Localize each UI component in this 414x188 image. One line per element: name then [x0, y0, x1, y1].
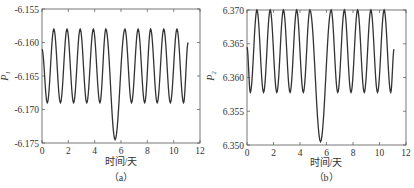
x-tick-label: 2 [66, 146, 71, 156]
y-tick-label: -6.170 [14, 105, 39, 115]
y-tick-label: 6.350 [223, 141, 245, 151]
caption-a: （a） [109, 172, 133, 183]
y-tick-label: 6.370 [223, 6, 245, 16]
y-tick-label: 6.360 [223, 73, 245, 83]
x-tick-label: 8 [145, 146, 150, 156]
x-axis-title-a: 时间/天 [105, 155, 138, 167]
y-tick-label: 6.365 [223, 39, 245, 49]
y-tick-label: 6.355 [223, 107, 245, 117]
x-tick-label: 0 [40, 146, 45, 156]
x-tick-label: 6 [119, 146, 124, 156]
x-tick-label: 4 [298, 148, 303, 158]
x-tick-label: 4 [92, 146, 97, 156]
x-tick-label: 0 [245, 148, 250, 158]
x-tick-label: 8 [351, 148, 356, 158]
x-axis-title-b: 时间/天 [310, 156, 343, 168]
x-tick-label: 12 [401, 148, 411, 158]
y-tick-label: -6.165 [14, 72, 39, 82]
x-tick-label: 12 [195, 146, 205, 156]
series-line-p2 [247, 10, 394, 142]
y-tick-label: -6.160 [14, 38, 39, 48]
y-tick-label: -6.155 [14, 5, 39, 15]
chart-panel-a: -6.155-6.160-6.165-6.170-6.175 024681012… [0, 5, 205, 184]
y-tick-label: -6.175 [14, 139, 39, 149]
x-tick-label: 2 [271, 148, 276, 158]
chart-panel-b: 6.3706.3656.3606.3556.350 024681012 时间/天… [205, 6, 411, 184]
figure: -6.155-6.160-6.165-6.170-6.175 024681012… [0, 0, 414, 188]
x-axis-a: 024681012 [40, 9, 205, 156]
y-axis-title-b: P₂ [205, 71, 216, 82]
y-axis-b: 6.3706.3656.3606.3556.350 [223, 6, 406, 151]
series-line-p1 [42, 29, 188, 140]
caption-b: （b） [314, 172, 339, 183]
x-tick-label: 10 [375, 148, 385, 158]
y-axis-title-a: P₁ [0, 71, 10, 82]
x-tick-label: 10 [169, 146, 179, 156]
